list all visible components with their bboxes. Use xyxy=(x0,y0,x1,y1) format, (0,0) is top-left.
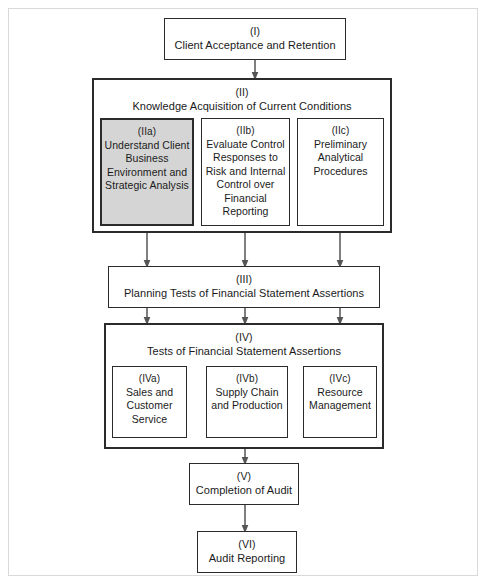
node-iv-caption: Tests of Financial Statement Assertions xyxy=(106,344,382,358)
node-ivc-caption: Resource Management xyxy=(304,386,376,413)
node-ii-roman: (II) xyxy=(94,86,390,99)
node-ivc-resource-management[interactable]: (IVc) Resource Management xyxy=(303,366,377,438)
node-iic-roman: (IIc) xyxy=(298,125,383,138)
node-iib-caption: Evaluate Control Responses to Risk and I… xyxy=(202,138,289,219)
node-iia-caption: Understand Client Business Environment a… xyxy=(102,139,192,193)
node-iib-evaluate-control-responses[interactable]: (IIb) Evaluate Control Responses to Risk… xyxy=(201,118,290,226)
node-i-roman: (I) xyxy=(165,25,345,38)
node-v-roman: (V) xyxy=(190,470,298,483)
node-iva-roman: (IVa) xyxy=(113,373,186,386)
node-v-caption: Completion of Audit xyxy=(190,483,298,497)
node-ivb-caption: Supply Chain and Production xyxy=(207,386,287,413)
node-iii-caption: Planning Tests of Financial Statement As… xyxy=(109,286,379,300)
node-i-caption: Client Acceptance and Retention xyxy=(165,38,345,52)
node-iva-caption: Sales and Customer Service xyxy=(113,386,186,426)
node-iii-planning-tests[interactable]: (III) Planning Tests of Financial Statem… xyxy=(108,266,380,308)
node-iic-preliminary-analytical-procedures[interactable]: (IIc) Preliminary Analytical Procedures xyxy=(297,118,384,226)
node-iib-roman: (IIb) xyxy=(202,125,289,138)
node-iv-roman: (IV) xyxy=(106,331,382,344)
node-ivb-roman: (IVb) xyxy=(207,373,287,386)
node-iia-roman: (IIa) xyxy=(102,126,192,139)
node-i-client-acceptance[interactable]: (I) Client Acceptance and Retention xyxy=(164,18,346,60)
node-iii-roman: (III) xyxy=(109,273,379,286)
node-v-completion-of-audit[interactable]: (V) Completion of Audit xyxy=(189,463,299,505)
node-vi-caption: Audit Reporting xyxy=(198,551,296,565)
node-vi-audit-reporting[interactable]: (VI) Audit Reporting xyxy=(197,531,297,573)
node-ivb-supply-chain-and-production[interactable]: (IVb) Supply Chain and Production xyxy=(206,366,288,438)
node-vi-roman: (VI) xyxy=(198,538,296,551)
node-iia-understand-client-business[interactable]: (IIa) Understand Client Business Environ… xyxy=(100,118,194,226)
flowchart-page: (I) Client Acceptance and Retention (II)… xyxy=(0,0,488,586)
node-iic-caption: Preliminary Analytical Procedures xyxy=(298,138,383,178)
node-ivc-roman: (IVc) xyxy=(304,373,376,386)
node-iva-sales-and-customer-service[interactable]: (IVa) Sales and Customer Service xyxy=(112,366,187,438)
node-ii-caption: Knowledge Acquisition of Current Conditi… xyxy=(94,99,390,113)
